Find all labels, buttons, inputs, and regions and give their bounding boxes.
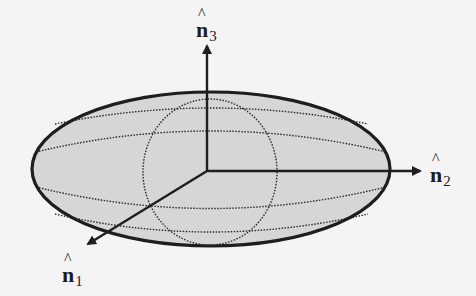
hat-mark: ^: [198, 6, 206, 22]
label-n2: ^n2: [430, 164, 451, 189]
hat-mark: ^: [64, 251, 72, 267]
hat-mark: ^: [432, 151, 440, 167]
ellipsoid-diagram: ^n3 ^n2 ^n1: [0, 0, 476, 296]
label-n3: ^n3: [196, 19, 217, 44]
label-n1: ^n1: [62, 264, 83, 289]
